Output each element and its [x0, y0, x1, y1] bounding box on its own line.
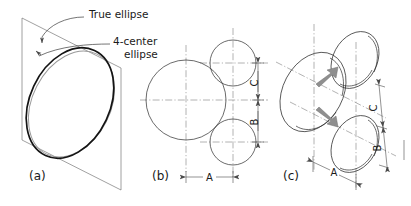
arrow-down-right-icon — [316, 107, 338, 127]
panel-c-arrows — [316, 67, 338, 127]
four-center-annotation-line1: 4-center — [113, 35, 158, 47]
panel-label-b: (b) — [152, 169, 169, 183]
panel-c-dimension-b: B — [372, 127, 387, 166]
panel-a-true-ellipse-leader — [42, 17, 84, 43]
panel-b-dim-c-label: C — [249, 79, 260, 86]
panel-c: C B A (c) — [267, 23, 396, 190]
panel-a-four-center-leader — [36, 44, 110, 56]
panel-b-centerlines — [140, 28, 268, 177]
panel-c-dimension-a: A — [313, 156, 356, 190]
arrow-up-right-icon — [316, 67, 338, 87]
panel-b-dim-a-label: A — [206, 172, 213, 183]
panel-c-dimension-c: C — [368, 85, 383, 127]
panel-c-dim-a-label: A — [331, 167, 338, 178]
panel-b-dimension-a: A — [186, 171, 233, 183]
panel-a-four-center-ellipse — [11, 36, 131, 171]
panel-label-c: (c) — [283, 169, 299, 183]
panel-a: True ellipse 4-center ellipse (a) — [9, 8, 158, 190]
panel-b-dimension-c: C — [249, 63, 260, 100]
panel-c-upper-ellipse — [321, 23, 388, 97]
panel-b-dim-b-label: B — [249, 118, 260, 125]
four-center-annotation-line2: ellipse — [124, 48, 158, 60]
figure-root: True ellipse 4-center ellipse (a) — [0, 0, 411, 206]
panel-b-dimension-b: B — [249, 100, 260, 142]
panel-label-a: (a) — [29, 169, 46, 183]
technical-drawing-svg: True ellipse 4-center ellipse (a) — [0, 0, 411, 206]
panel-c-large-ellipse — [267, 41, 359, 143]
true-ellipse-annotation: True ellipse — [88, 8, 148, 20]
panel-c-dim-c-label: C — [368, 104, 379, 111]
panel-b-circles — [146, 40, 256, 165]
panel-b: C B A (b) — [140, 28, 268, 183]
panel-c-dim-b-label: B — [372, 144, 383, 151]
panel-a-true-ellipse — [9, 34, 131, 173]
